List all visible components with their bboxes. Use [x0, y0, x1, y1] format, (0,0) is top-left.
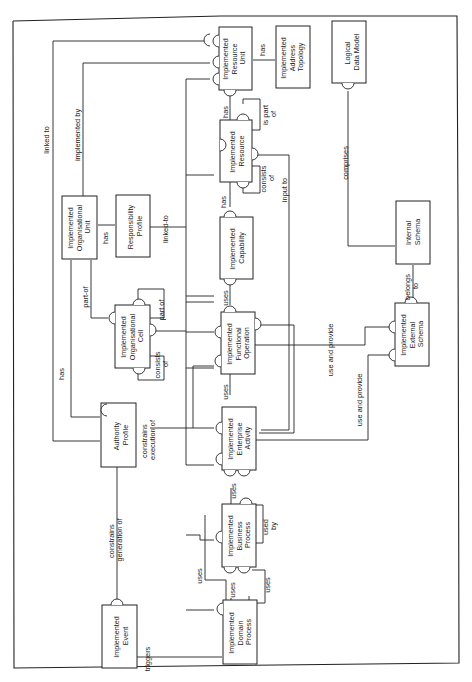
entity-business-process[interactable]: Implemented Business Process: [222, 504, 256, 567]
connectors: [0, 0, 413, 657]
entity-org-cell[interactable]: Implemented Organisational Cell: [115, 305, 150, 368]
svg-text:Internal Schema: Internal Schema: [404, 219, 422, 245]
entity-enterprise-activity[interactable]: Implemented Enterprise Activity: [222, 407, 256, 470]
label-part-of-unit: part-of: [81, 285, 90, 307]
entity-address-topology[interactable]: Implemented Address Topology: [276, 26, 310, 88]
label-has-responsibility: has: [101, 232, 110, 244]
entity-functional-operation[interactable]: Implemented Functional Operation: [221, 312, 255, 374]
entity-resource[interactable]: Implemented Resource: [220, 120, 252, 182]
label-has-resource-unit: has: [221, 106, 230, 118]
label-is-part-of: is part of: [261, 103, 278, 125]
entity-logical-data-model[interactable]: Logical Data Model: [332, 21, 366, 83]
label-uses-functional: uses: [221, 384, 230, 400]
label-uses-enterprise: uses: [229, 483, 238, 499]
label-consists-of-resource: consists of: [259, 164, 276, 193]
label-comprises: comprises: [341, 146, 350, 180]
entity-capability[interactable]: Implemented Capability: [220, 217, 253, 279]
label-used-by: used by: [261, 517, 278, 535]
svg-text:Implemented Functional: Implemented Functional Operation: [225, 321, 251, 365]
label-uses-capability: uses: [221, 290, 230, 306]
entity-internal-schema[interactable]: Internal Schema: [396, 201, 430, 264]
label-part-of-cell: part of: [157, 299, 166, 321]
label-linked-to-responsibility: linked-to: [161, 215, 170, 243]
er-diagram: Implemented Resource Unit Implemented Ad…: [0, 0, 472, 682]
entity-event[interactable]: Implemented Event: [102, 605, 137, 668]
label-uses-business: uses: [195, 568, 204, 584]
label-constrains-execution-of: constrains execution of: [140, 419, 157, 460]
label-implemented-by: implemented by: [73, 109, 82, 161]
entity-org-unit[interactable]: Implemented Organisational Unit: [62, 196, 97, 259]
entity-external-schema[interactable]: Implemented External Schema: [395, 303, 429, 366]
entity-domain-process[interactable]: Implemented Domain Process: [223, 600, 257, 664]
label-consists-of-cell: consists of: [153, 350, 170, 379]
label-uses-domain: uses: [228, 582, 237, 598]
entity-resource-unit[interactable]: Implemented Resource Unit: [204, 27, 252, 90]
entity-responsibility-profile[interactable]: Responsibility Profile: [116, 195, 150, 257]
label-linked-to: linked to: [42, 126, 51, 154]
label-constrains-generation-of: constrains generation of: [107, 517, 124, 561]
svg-text:Implemented Capability: Implemented Capability: [228, 226, 246, 270]
svg-text:Implemented Resource: Implemented Resource: [228, 129, 246, 173]
label-triggers: triggers: [143, 646, 152, 671]
label-has-resource: has: [219, 196, 228, 208]
label-use-and-provide-2: use and provide: [355, 374, 364, 427]
label-has-address-topology: has: [258, 44, 267, 56]
label-input-to: input to: [280, 178, 289, 202]
label-belongs-to: belongs to: [403, 272, 420, 300]
label-use-and-provide-1: use and provide: [326, 324, 335, 377]
label-has-authority: has: [57, 368, 66, 380]
label-uses-self: uses: [263, 577, 272, 593]
